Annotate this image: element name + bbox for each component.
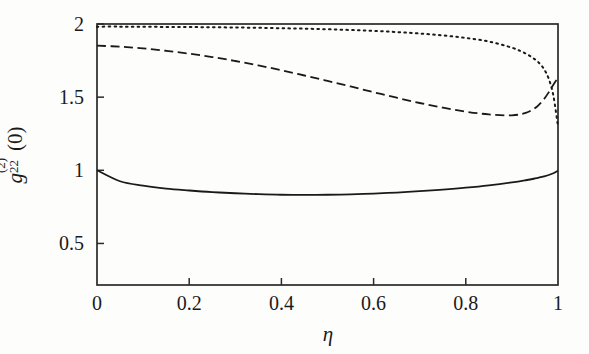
- plot-svg: [0, 0, 589, 354]
- y-axis-title-scripts: (2)22: [1, 151, 22, 173]
- y-tick-marks: [97, 24, 104, 243]
- plot-frame-rect: [97, 24, 558, 285]
- axes-frame: [97, 24, 558, 285]
- y-axis-title-subscript: 22: [6, 160, 22, 173]
- curve-solid: [97, 170, 558, 195]
- x-tick-label: 0.6: [361, 292, 386, 315]
- y-tick-label: 0.5: [0, 232, 84, 255]
- x-tick-label: 0.2: [177, 292, 202, 315]
- x-tick-label: 1: [553, 292, 563, 315]
- y-axis-title-suffix: (0): [3, 126, 27, 151]
- curve-dashed: [97, 46, 558, 116]
- y-tick-label: 1.5: [0, 86, 84, 109]
- figure-container: 0.511.52 00.20.40.60.81 η g(2)22(0): [0, 0, 589, 354]
- x-tick-marks: [189, 278, 466, 285]
- y-axis-title-base: g: [3, 173, 27, 184]
- x-tick-label: 0.4: [269, 292, 294, 315]
- x-axis-title-text: η: [323, 322, 333, 346]
- y-axis-title: g(2)22(0): [1, 126, 28, 183]
- x-axis-title: η: [323, 322, 333, 347]
- curve-dotted: [97, 27, 558, 127]
- y-tick-label: 2: [0, 13, 84, 36]
- data-curves: [97, 27, 558, 195]
- x-tick-label: 0.8: [453, 292, 478, 315]
- x-tick-label: 0: [92, 292, 102, 315]
